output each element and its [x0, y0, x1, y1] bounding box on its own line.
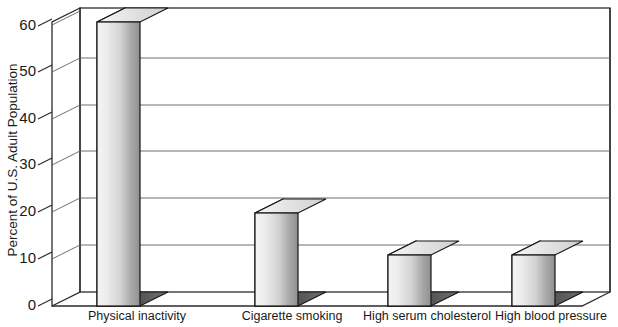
y-axis-ticks [38, 19, 52, 306]
bar-top-face [388, 241, 459, 255]
x-tick-label: High blood pressure [495, 309, 607, 323]
y-axis-tick-labels: 60 50 40 30 20 10 0 [19, 16, 36, 313]
y-tick-label: 50 [19, 62, 36, 79]
bar-physical-inactivity[interactable] [97, 8, 168, 306]
y-tick-label: 60 [19, 16, 36, 33]
bar-top-face [97, 8, 168, 22]
bar-top-face [255, 199, 326, 213]
bar-high-blood-pressure[interactable] [512, 241, 583, 306]
bar-front-face [512, 255, 555, 306]
bar-cigarette-smoking[interactable] [255, 199, 326, 306]
x-tick-label: Cigarette smoking [242, 309, 343, 323]
y-axis-title: Percent of U.S. Adult Population [5, 64, 20, 257]
tick-0 [38, 299, 52, 306]
left-wall [52, 8, 80, 306]
y-tick-label: 30 [19, 155, 36, 172]
x-tick-label: High serum cholesterol [363, 309, 491, 323]
bar-front-face [97, 22, 140, 306]
y-tick-label: 20 [19, 202, 36, 219]
bar-chart: 60 50 40 30 20 10 0 Percent of U.S. Adul… [0, 0, 618, 327]
tick-50 [38, 65, 52, 72]
chart-canvas: 60 50 40 30 20 10 0 Percent of U.S. Adul… [0, 0, 618, 327]
y-tick-label: 0 [28, 296, 36, 313]
gridline-60 [52, 11, 80, 25]
y-tick-label: 40 [19, 109, 36, 126]
tick-10 [38, 252, 52, 259]
x-tick-label: Physical inactivity [88, 309, 187, 323]
bar-top-face [512, 241, 583, 255]
tick-60 [38, 19, 52, 26]
x-axis-category-labels: Physical inactivity Cigarette smoking Hi… [88, 309, 607, 323]
bar-high-serum-cholesterol[interactable] [388, 241, 459, 306]
tick-30 [38, 158, 52, 165]
bar-front-face [388, 255, 431, 306]
tick-20 [38, 205, 52, 212]
tick-40 [38, 112, 52, 119]
y-tick-label: 10 [19, 249, 36, 266]
bar-front-face [255, 213, 298, 306]
